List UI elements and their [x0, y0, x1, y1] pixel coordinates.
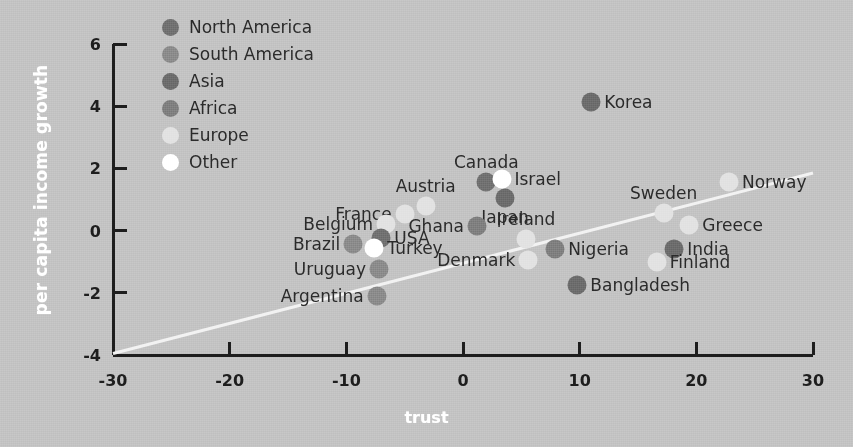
data-point-label-belgium: Belgium [303, 215, 373, 232]
legend-item-label: Other [189, 154, 237, 171]
data-point-ireland[interactable] [517, 230, 536, 249]
data-point-label-ireland: Ireland [497, 211, 556, 228]
data-point-label-sweden: Sweden [630, 185, 697, 202]
legend: North AmericaSouth AmericaAsiaAfricaEuro… [162, 14, 314, 176]
legend-item-south-america[interactable]: South America [162, 41, 314, 68]
data-point-label-argentina: Argentina [281, 287, 364, 304]
data-point-greece[interactable] [680, 216, 699, 235]
x-tick-20: 20 [666, 371, 726, 390]
legend-swatch-icon [162, 154, 179, 171]
data-point-austria[interactable] [416, 197, 435, 216]
data-point-japan[interactable] [496, 188, 515, 207]
y-tick--4: -4 [53, 346, 101, 365]
y-tick-2: 2 [53, 159, 101, 178]
data-point-label-bangladesh: Bangladesh [590, 277, 690, 294]
x-tick--20: -20 [200, 371, 260, 390]
data-point-denmark[interactable] [519, 251, 538, 270]
data-point-finland[interactable] [647, 253, 666, 272]
legend-swatch-icon [162, 73, 179, 90]
data-point-argentina[interactable] [367, 286, 386, 305]
y-axis-label: per capita income growth [31, 55, 51, 325]
legend-item-africa[interactable]: Africa [162, 95, 314, 122]
data-point-label-uruguay: Uruguay [294, 261, 366, 278]
y-tick-0: 0 [53, 222, 101, 241]
data-point-turkey[interactable] [365, 238, 384, 257]
data-point-israel[interactable] [492, 170, 511, 189]
x-tick--30: -30 [83, 371, 143, 390]
legend-item-label: South America [189, 46, 314, 63]
legend-item-label: Europe [189, 127, 249, 144]
x-axis-label: trust [0, 408, 853, 427]
legend-item-north-america[interactable]: North America [162, 14, 314, 41]
legend-swatch-icon [162, 46, 179, 63]
data-point-uruguay[interactable] [370, 260, 389, 279]
legend-item-asia[interactable]: Asia [162, 68, 314, 95]
x-tick-0: 0 [433, 371, 493, 390]
legend-swatch-icon [162, 100, 179, 117]
data-point-label-brazil: Brazil [293, 235, 340, 252]
data-point-ghana[interactable] [468, 216, 487, 235]
data-point-label-norway: Norway [742, 174, 807, 191]
data-point-label-greece: Greece [702, 217, 763, 234]
legend-item-other[interactable]: Other [162, 149, 314, 176]
x-tick--10: -10 [316, 371, 376, 390]
legend-item-label: Africa [189, 100, 238, 117]
data-point-label-korea: Korea [604, 93, 652, 110]
data-point-label-austria: Austria [396, 178, 456, 195]
data-point-brazil[interactable] [344, 234, 363, 253]
data-point-sweden[interactable] [654, 204, 673, 223]
legend-item-europe[interactable]: Europe [162, 122, 314, 149]
x-tick-10: 10 [550, 371, 610, 390]
data-point-norway[interactable] [720, 173, 739, 192]
x-tick-30: 30 [783, 371, 843, 390]
data-point-label-israel: Israel [515, 171, 561, 188]
scatter-plot: per capita income growth trust 6420-2-4 … [0, 0, 853, 447]
data-point-korea[interactable] [582, 92, 601, 111]
legend-swatch-icon [162, 19, 179, 36]
legend-item-label: North America [189, 19, 312, 36]
y-tick--2: -2 [53, 284, 101, 303]
data-point-label-finland: Finland [670, 254, 731, 271]
legend-item-label: Asia [189, 73, 225, 90]
data-point-label-turkey: Turkey [387, 239, 442, 256]
data-point-nigeria[interactable] [546, 240, 565, 259]
data-point-label-denmark: Denmark [437, 252, 515, 269]
data-point-bangladesh[interactable] [568, 276, 587, 295]
legend-swatch-icon [162, 127, 179, 144]
data-point-label-nigeria: Nigeria [568, 241, 629, 258]
y-tick-4: 4 [53, 97, 101, 116]
data-point-label-canada: Canada [454, 154, 519, 171]
y-tick-6: 6 [53, 35, 101, 54]
